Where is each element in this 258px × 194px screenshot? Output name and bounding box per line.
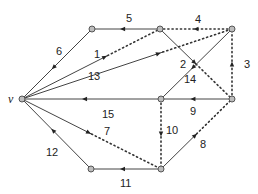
arrow-icon	[230, 62, 234, 67]
edge-label-15: 15	[102, 108, 114, 120]
edge-label-2: 2	[180, 58, 186, 70]
edge-label-3: 3	[244, 58, 250, 70]
node-D	[158, 96, 164, 102]
edge-8-segment	[197, 99, 233, 134]
arrow-icon	[194, 27, 199, 31]
node-A	[89, 26, 95, 32]
edge-7-segment	[22, 99, 92, 134]
edge-label-10: 10	[166, 124, 178, 136]
edge-6-segment	[22, 29, 92, 99]
node-B	[157, 26, 163, 32]
edge-label-13: 13	[88, 70, 100, 82]
edge-label-6: 6	[56, 45, 62, 57]
edge-label-9: 9	[190, 105, 196, 117]
edge-label-5: 5	[126, 12, 132, 24]
node-v	[19, 96, 25, 102]
edge-label-1: 1	[94, 48, 100, 60]
arrow-icon	[159, 132, 163, 137]
edge-label-4: 4	[195, 13, 201, 25]
node-E	[229, 96, 235, 102]
edge-label-8: 8	[200, 138, 206, 150]
arrow-icon	[120, 27, 125, 31]
edge-13-segment	[163, 29, 232, 52]
edge-12-segment	[22, 99, 91, 169]
node-C	[229, 26, 235, 32]
node-G	[158, 166, 164, 172]
edge-label-7: 7	[104, 125, 110, 137]
node-F	[88, 166, 94, 172]
edge-8-segment	[161, 134, 197, 169]
graph-diagram: v 123456789101112131415	[0, 0, 258, 194]
graph-svg: v 123456789101112131415	[0, 0, 258, 194]
node-label-v: v	[8, 92, 14, 106]
edge-label-14: 14	[184, 73, 196, 85]
edge-7-segment	[92, 134, 162, 169]
edge-1-segment	[108, 29, 160, 56]
arrow-icon	[82, 97, 87, 101]
edge-label-11: 11	[120, 177, 131, 189]
arrow-icon	[190, 97, 195, 101]
edge-2-segment	[196, 64, 232, 99]
arrow-icon	[155, 52, 160, 56]
arrow-icon	[120, 167, 125, 171]
edge-label-12: 12	[46, 146, 58, 158]
